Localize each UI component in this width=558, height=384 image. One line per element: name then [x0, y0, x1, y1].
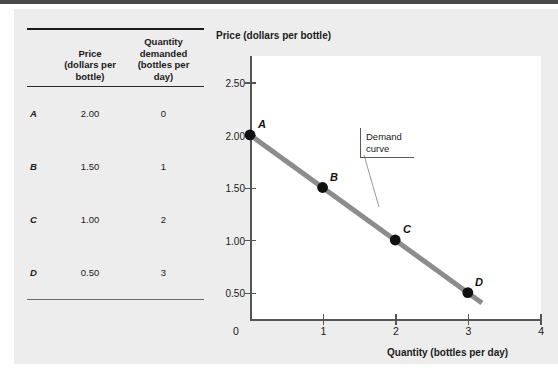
data-point-label-d: D: [475, 276, 483, 288]
data-point-c[interactable]: [390, 235, 401, 246]
row-quantity-c: 2: [123, 193, 204, 246]
column-header-price: Price (dollars per bottle): [57, 30, 123, 86]
data-point-b[interactable]: [317, 182, 328, 193]
demand-curve-line[interactable]: [250, 135, 482, 303]
row-price-c: 1.00: [57, 193, 123, 246]
table-bottom-rule: [27, 299, 204, 300]
demand-curve-svg: [216, 22, 552, 362]
row-price-b: 1.50: [57, 140, 123, 193]
demand-schedule-table: Price (dollars per bottle) Quantity dema…: [27, 28, 204, 300]
row-price-a: 2.00: [57, 87, 123, 141]
data-point-label-b: B: [330, 171, 338, 183]
row-price-d: 0.50: [57, 246, 123, 299]
row-label-a: A: [27, 87, 57, 141]
data-point-label-c: C: [403, 223, 411, 235]
column-header-label: [27, 30, 57, 86]
data-point-a[interactable]: [245, 130, 256, 141]
row-quantity-b: 1: [123, 140, 204, 193]
row-quantity-d: 3: [123, 246, 204, 299]
price-header-line1: Price: [57, 48, 123, 60]
price-header-line2: (dollars per: [57, 59, 123, 71]
data-point-label-a: A: [258, 118, 266, 130]
demand-curve-chart: Price (dollars per bottle) Quantity (bot…: [216, 22, 552, 362]
table-row: B 1.50 1: [27, 140, 204, 193]
demand-curve-annotation: Demand curve: [360, 128, 414, 158]
row-label-d: D: [27, 246, 57, 299]
row-label-c: C: [27, 193, 57, 246]
table-row: D 0.50 3: [27, 246, 204, 299]
data-point-d[interactable]: [462, 287, 473, 298]
quantity-header-line2: demanded: [123, 48, 204, 60]
table-row: C 1.00 2: [27, 193, 204, 246]
row-quantity-a: 0: [123, 87, 204, 141]
quantity-header-line1: Quantity: [123, 36, 204, 48]
annotation-leader-line: [364, 155, 379, 207]
figure-container: Price (dollars per bottle) Quantity dema…: [0, 0, 558, 384]
row-label-b: B: [27, 140, 57, 193]
annotation-line1: Demand: [366, 131, 402, 143]
table-row: A 2.00 0: [27, 87, 204, 141]
table-header-row: Price (dollars per bottle) Quantity dema…: [27, 30, 204, 86]
figure-top-rule: [0, 0, 558, 4]
column-header-quantity-demanded: Quantity demanded (bottles per day): [123, 30, 204, 86]
quantity-header-line4: day): [123, 71, 204, 83]
annotation-line2: curve: [366, 143, 402, 155]
quantity-header-line3: (bottles per: [123, 59, 204, 71]
price-header-line3: bottle): [57, 71, 123, 83]
